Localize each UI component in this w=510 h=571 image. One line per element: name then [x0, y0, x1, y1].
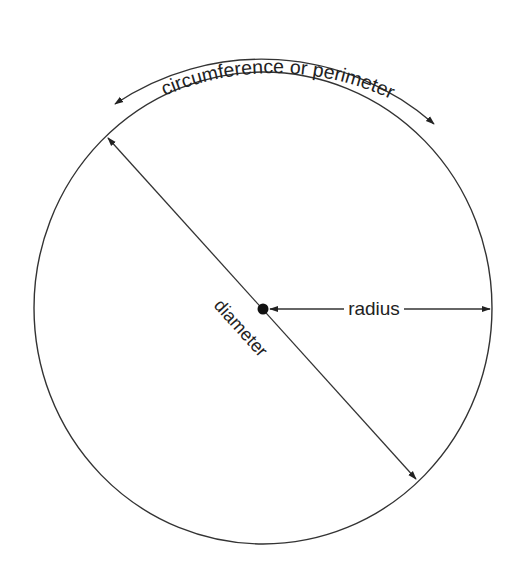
- radius-label: radius: [348, 298, 400, 319]
- circle-diagram: circumference or perimeter diameter radi…: [0, 0, 510, 571]
- center-point: [258, 304, 269, 315]
